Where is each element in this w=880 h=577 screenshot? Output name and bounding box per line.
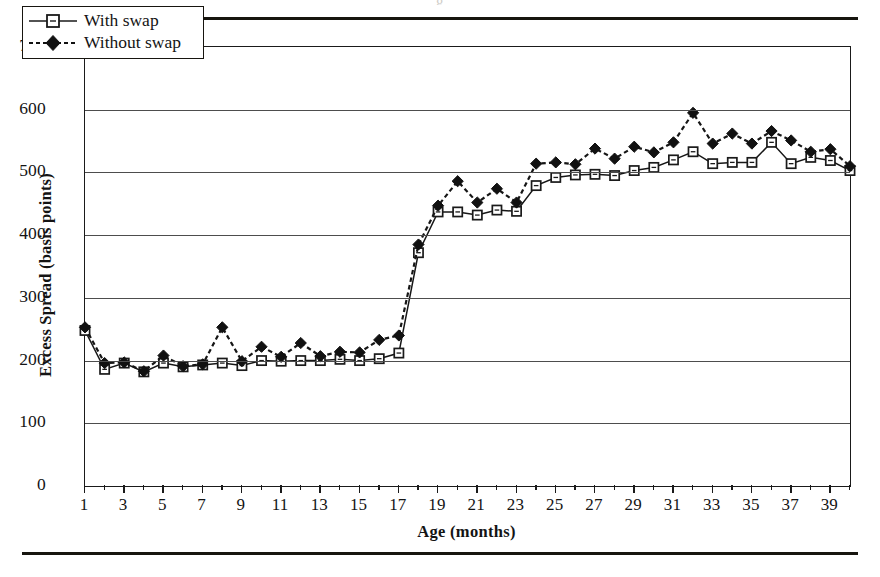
data-point-marker <box>649 163 658 172</box>
x-axis-tick <box>516 485 517 493</box>
gridline <box>85 235 850 236</box>
x-axis-tick <box>849 485 850 490</box>
gridline <box>85 361 850 362</box>
x-axis-tick <box>594 485 595 493</box>
x-axis-tick <box>378 485 379 490</box>
x-axis-tick <box>359 485 360 493</box>
x-axis-tick-label: 11 <box>272 496 289 513</box>
y-axis-title: Excess Spread (basis points) <box>36 75 56 475</box>
x-axis-tick-label: 35 <box>742 496 759 513</box>
x-axis-tick-label: 3 <box>119 496 128 513</box>
data-point-marker <box>787 159 796 168</box>
x-axis-tick <box>123 485 124 493</box>
x-axis-tick-label: 27 <box>585 496 602 513</box>
x-axis-tick-label: 37 <box>781 496 798 513</box>
x-axis-tick-label: 29 <box>625 496 642 513</box>
x-axis-tick-label: 1 <box>80 496 89 513</box>
x-axis-tick <box>810 485 811 490</box>
x-axis-title: Age (months) <box>84 522 849 542</box>
x-axis-tick <box>731 485 732 490</box>
x-axis-tick <box>319 485 320 493</box>
data-point-marker <box>394 348 403 357</box>
data-point-marker <box>374 334 385 345</box>
data-point-marker <box>531 158 542 169</box>
x-axis-tick <box>437 485 438 493</box>
data-point-marker <box>668 137 679 148</box>
data-point-marker <box>218 358 227 367</box>
x-axis-tick <box>417 485 418 490</box>
x-axis-tick <box>162 485 163 493</box>
x-axis-tick-label: 7 <box>197 496 206 513</box>
data-point-marker <box>669 155 678 164</box>
data-point-marker <box>747 158 756 167</box>
data-point-marker <box>551 173 560 182</box>
x-axis-tick <box>633 485 634 493</box>
x-axis-tick <box>261 485 262 490</box>
data-point-marker <box>688 147 697 156</box>
data-point-marker <box>532 181 541 190</box>
x-axis-tick <box>280 485 281 493</box>
x-axis-tick <box>398 485 399 493</box>
y-axis-tick-label: 0 <box>37 476 46 494</box>
data-point-marker <box>217 322 228 333</box>
data-point-marker <box>708 159 717 168</box>
data-point-marker <box>728 158 737 167</box>
data-point-marker <box>766 125 777 136</box>
x-axis-tick <box>84 485 85 493</box>
legend-item-without-swap: Without swap <box>27 32 199 54</box>
x-axis-tick-label: 23 <box>507 496 524 513</box>
data-point-marker <box>453 207 462 216</box>
x-axis-tick-labels: 13579111315171921232527293133353739 <box>84 496 849 520</box>
data-point-marker <box>707 138 718 149</box>
series-canvas <box>85 47 850 486</box>
data-point-marker <box>746 138 757 149</box>
figure-container: g 0100200300400500600700 Excess Spread (… <box>0 0 880 577</box>
x-axis-tick-label: 17 <box>389 496 406 513</box>
x-axis-tick-label: 5 <box>158 496 167 513</box>
x-axis-tick-label: 13 <box>311 496 328 513</box>
x-axis-tick <box>143 485 144 490</box>
x-axis-tick <box>614 485 615 490</box>
legend-item-with-swap: With swap <box>27 10 199 32</box>
x-axis-tick <box>653 485 654 490</box>
gridline <box>85 423 850 424</box>
data-point-marker <box>786 135 797 146</box>
x-axis-tick <box>241 485 242 493</box>
data-point-marker <box>727 128 738 139</box>
x-axis-tick <box>182 485 183 490</box>
x-axis-tick <box>574 485 575 490</box>
legend-key-filled-diamond-icon <box>27 33 79 53</box>
x-axis-tick <box>476 485 477 493</box>
data-point-marker <box>826 156 835 165</box>
data-point-marker <box>550 157 561 168</box>
x-axis-tick <box>790 485 791 493</box>
x-axis-tick-label: 25 <box>546 496 563 513</box>
data-point-marker <box>648 147 659 158</box>
series-line-without-swap <box>85 113 850 371</box>
data-point-marker <box>629 141 640 152</box>
x-axis-tick <box>300 485 301 490</box>
x-axis-tick <box>104 485 105 490</box>
x-axis-tick <box>829 485 830 493</box>
x-axis-tick <box>555 485 556 493</box>
x-axis-tick <box>771 485 772 490</box>
x-axis-tick-label: 21 <box>468 496 485 513</box>
x-axis-tick <box>496 485 497 490</box>
data-point-marker <box>589 143 600 154</box>
x-axis-tick <box>672 485 673 493</box>
x-axis-tick-label: 39 <box>821 496 838 513</box>
data-point-marker <box>687 107 698 118</box>
x-axis-tick <box>457 485 458 490</box>
data-point-marker <box>767 138 776 147</box>
x-axis-tick <box>202 485 203 493</box>
data-point-marker <box>473 210 482 219</box>
figure-bottom-rule <box>22 552 858 555</box>
gridline <box>85 110 850 111</box>
series-line-with-swap <box>85 142 850 372</box>
x-axis-tick-label: 15 <box>350 496 367 513</box>
data-point-marker <box>609 153 620 164</box>
gridline <box>85 298 850 299</box>
x-axis-tick <box>692 485 693 490</box>
data-point-marker <box>492 205 501 214</box>
x-axis-tick <box>535 485 536 490</box>
